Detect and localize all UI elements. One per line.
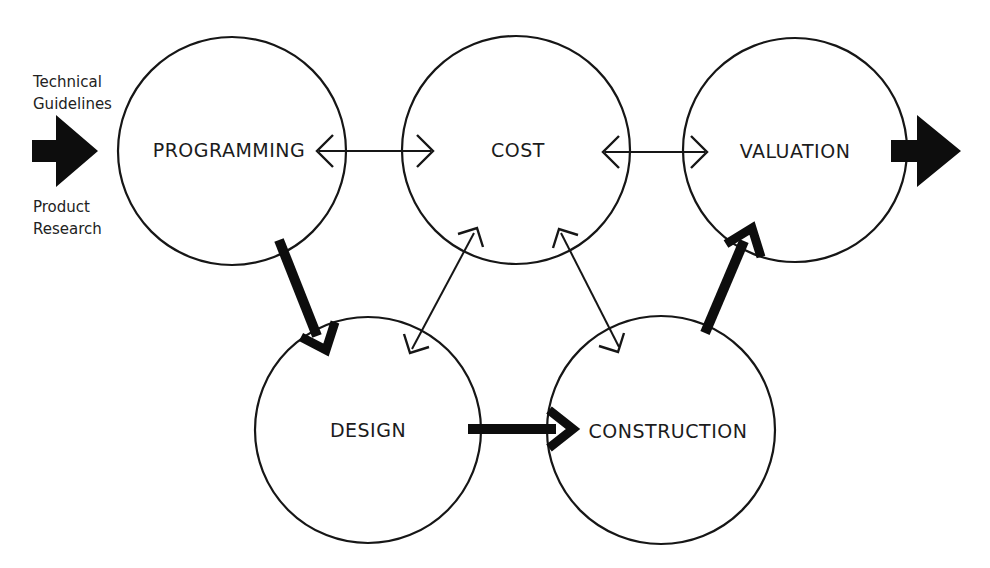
edge-construction-valuation-shaft — [705, 241, 744, 333]
edge-cost-valuation — [603, 136, 707, 168]
input-label-guidelines: Guidelines — [33, 95, 112, 113]
node-cost-label: COST — [491, 139, 545, 161]
input-label-research: Research — [33, 220, 102, 238]
edge-design-cost — [404, 228, 483, 353]
node-design-label: DESIGN — [330, 419, 406, 441]
node-valuation-label: VALUATION — [740, 140, 851, 162]
edge-design-construction — [468, 410, 573, 448]
edge-cost-construction-line — [561, 233, 619, 347]
edge-design-cost-line — [412, 233, 474, 349]
edge-programming-design-shaft — [279, 240, 317, 336]
input-block-arrow-icon — [32, 115, 98, 187]
node-programming-label: PROGRAMMING — [153, 139, 306, 161]
arrowhead-open-up-icon — [553, 229, 578, 248]
edge-cost-construction — [553, 229, 624, 352]
arrowhead-open-down-icon — [599, 333, 624, 352]
edge-programming-cost — [317, 135, 433, 167]
edge-construction-valuation — [705, 228, 761, 333]
arrowhead-open-down-icon — [404, 334, 429, 353]
input-label-product: Product — [33, 198, 90, 216]
diagram-canvas: PROGRAMMING COST VALUATION DESIGN CONSTR… — [0, 0, 990, 568]
node-construction-label: CONSTRUCTION — [589, 420, 748, 442]
input-label-technical: Technical — [32, 73, 102, 91]
process-flow-diagram: PROGRAMMING COST VALUATION DESIGN CONSTR… — [0, 0, 990, 568]
edge-programming-design — [279, 240, 335, 350]
output-block-arrow-icon — [891, 115, 961, 187]
